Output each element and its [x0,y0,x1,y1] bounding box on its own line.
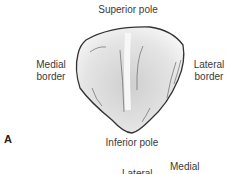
next-panel-medial-label: Medial [170,161,199,173]
next-panel-lateral-label: Lateral [122,168,153,174]
medial-border-line1: Medial [32,59,70,71]
medial-border-label: Medial border [32,59,70,83]
lateral-border-line1: Lateral [189,59,229,71]
inferior-pole-label: Inferior pole [92,137,172,149]
superior-pole-label: Superior pole [88,4,168,16]
medial-border-line2: border [32,71,70,83]
panel-label-a: A [4,133,12,145]
lateral-border-line2: border [189,71,229,83]
lateral-border-label: Lateral border [189,59,229,83]
